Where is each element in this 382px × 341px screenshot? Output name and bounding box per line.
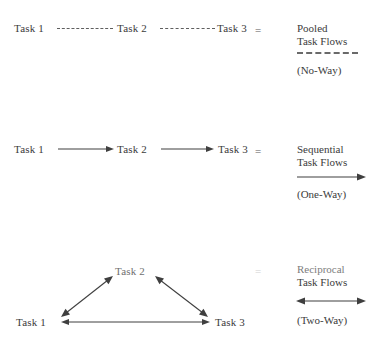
legend-symbol-two-way-arrow-icon xyxy=(296,298,366,305)
arrow-task1-task2-reciprocal xyxy=(61,276,113,317)
arrow-task2-to-task3-sequential xyxy=(161,146,214,152)
diagram-canvas: Task 1 Task 2 Task 3 = Pooled Task Flows… xyxy=(0,0,382,341)
arrow-layer xyxy=(0,0,382,341)
arrow-task2-task3-reciprocal xyxy=(155,276,208,317)
arrow-task1-task3-reciprocal xyxy=(61,319,210,325)
arrow-task1-to-task2-sequential xyxy=(58,146,114,152)
legend-symbol-one-way-arrow-icon xyxy=(297,174,366,181)
